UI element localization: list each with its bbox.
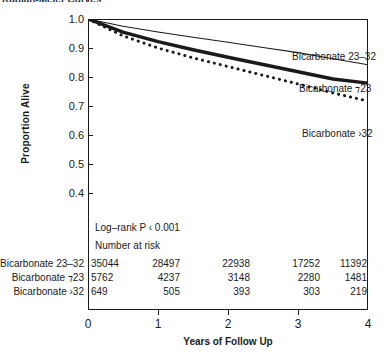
y-tick-label: 0.5 [58,159,84,169]
number-at-risk-title: Number at risk [95,240,160,251]
risk-value: 17252 [276,258,320,269]
x-tick-mark [298,310,299,315]
risk-value: 35044 [91,258,135,269]
risk-row-label: Bicarbonate 23–32 [0,258,84,269]
y-tick-mark [88,164,93,165]
x-tick-mark [158,310,159,315]
x-tick-mark [228,310,229,315]
y-tick-mark [88,19,93,20]
x-tick-label: 1 [143,317,173,331]
series-label-bicarbonate-lt-23: Bicarbonate ⁊23 [299,83,371,94]
y-tick-mark [88,48,93,49]
table-row: Bicarbonate ⁊2357624237314822801481 [0,272,384,286]
y-tick-mark [88,193,93,194]
risk-value: 219 [323,286,367,297]
risk-value: 3148 [206,272,250,283]
risk-value: 303 [276,286,320,297]
risk-value: 11392 [323,258,367,269]
y-axis-label: Proportion Alive [20,74,31,174]
risk-row-label: Bicarbonate ⁊23 [0,272,84,283]
x-tick-label: 4 [353,317,383,331]
series-label-bicarbonate-gt-32: Bicarbonate ›32 [302,128,373,139]
x-axis-label: Years of Follow Up [88,336,368,347]
risk-value: 505 [136,286,180,297]
y-tick-mark [88,77,93,78]
risk-value: 1481 [323,272,367,283]
table-row: Bicarbonate 23–3235044284972293817252113… [0,258,384,272]
y-tick-mark [88,106,93,107]
x-tick-label: 0 [73,317,103,331]
y-tick-mark [88,135,93,136]
risk-row-label: Bicarbonate ›32 [0,286,84,297]
risk-value: 22938 [206,258,250,269]
risk-value: 393 [206,286,250,297]
y-tick-label: 0.6 [58,130,84,140]
y-tick-label: 0.7 [58,101,84,111]
risk-value: 4237 [136,272,180,283]
y-tick-label: 0.9 [58,43,84,53]
risk-value: 28497 [136,258,180,269]
risk-value: 649 [91,286,135,297]
logrank-annotation: Log–rank P ‹ 0.001 [95,222,180,233]
series-label-bicarbonate-23-32: Bicarbonate 23–32 [292,51,376,62]
y-tick-label: 1.0 [58,14,84,24]
risk-value: 2280 [276,272,320,283]
y-tick-label: 0.8 [58,72,84,82]
y-axis-ticks: 1.00.90.80.70.60.50.4 [52,0,84,354]
y-tick-label: 0.4 [58,188,84,198]
table-row: Bicarbonate ›32649505393303219 [0,286,384,300]
x-tick-label: 2 [213,317,243,331]
x-tick-label: 3 [283,317,313,331]
risk-value: 5762 [91,272,135,283]
number-at-risk-table: Bicarbonate 23–3235044284972293817252113… [0,258,384,300]
